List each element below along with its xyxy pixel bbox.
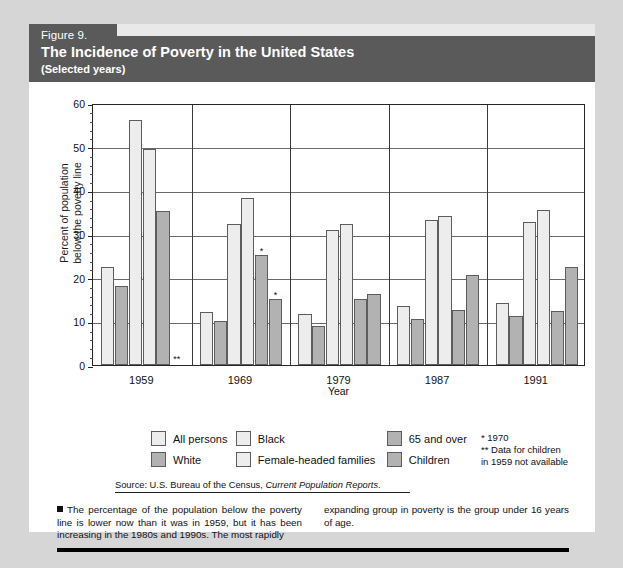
gridline bbox=[93, 148, 584, 149]
y-axis-minor-tick bbox=[90, 270, 93, 271]
bar bbox=[214, 321, 227, 365]
x-axis-title: Year bbox=[92, 385, 585, 397]
bar bbox=[367, 294, 380, 365]
legend-item-black: Black bbox=[236, 431, 387, 446]
bullet-square-icon bbox=[57, 506, 63, 512]
y-axis-minor-tick bbox=[90, 139, 93, 140]
bar bbox=[452, 310, 465, 365]
y-axis-minor-tick bbox=[90, 122, 93, 123]
bar bbox=[466, 275, 479, 365]
x-axis-tick-label: 1987 bbox=[425, 374, 449, 386]
legend-item-all-persons: All persons bbox=[151, 431, 236, 446]
y-axis-title-line2: below the poverty line bbox=[71, 108, 84, 318]
legend-label: Black bbox=[258, 433, 285, 445]
y-axis-minor-tick bbox=[90, 358, 93, 359]
bar bbox=[129, 120, 142, 365]
group-separator bbox=[389, 105, 390, 365]
y-axis-tick bbox=[88, 323, 93, 324]
figure-subtitle: (Selected years) bbox=[41, 62, 595, 76]
caption: The percentage of the population below t… bbox=[57, 504, 569, 542]
y-axis-minor-tick bbox=[90, 174, 93, 175]
y-axis-minor-tick bbox=[90, 218, 93, 219]
legend-item-children: Children bbox=[387, 452, 481, 467]
y-axis-minor-tick bbox=[90, 209, 93, 210]
y-axis-title-line1: Percent of population bbox=[58, 108, 71, 318]
bar bbox=[200, 312, 213, 365]
bar-annotation: * bbox=[255, 247, 268, 255]
group-separator bbox=[290, 105, 291, 365]
y-axis-tick-label: 40 bbox=[73, 185, 85, 197]
y-axis-minor-tick bbox=[90, 201, 93, 202]
caption-text-right: expanding group in poverty is the group … bbox=[324, 504, 569, 528]
y-axis-minor-tick bbox=[90, 288, 93, 289]
bar bbox=[537, 210, 550, 365]
bar bbox=[269, 299, 282, 365]
y-axis-tick bbox=[88, 236, 93, 237]
figure-number: Figure 9. bbox=[41, 28, 595, 42]
legend-label: Children bbox=[409, 454, 450, 466]
y-axis-tick bbox=[88, 279, 93, 280]
legend-swatch-icon bbox=[151, 431, 166, 446]
bar bbox=[551, 311, 564, 365]
legend-swatch-icon bbox=[387, 431, 402, 446]
y-axis-minor-tick bbox=[90, 305, 93, 306]
bar bbox=[438, 216, 451, 365]
bar bbox=[298, 314, 311, 365]
x-axis-tick-label: 1991 bbox=[523, 374, 547, 386]
source-suffix: . bbox=[378, 480, 381, 490]
source-prefix: Source: U.S. Bureau of the Census, bbox=[115, 480, 265, 490]
chart-legend: All persons Black 65 and over White Fema… bbox=[151, 428, 481, 470]
legend-label: All persons bbox=[173, 433, 227, 445]
legend-row: White Female-headed families Children bbox=[151, 449, 481, 470]
y-axis-minor-tick bbox=[90, 157, 93, 158]
y-axis-title: Percent of population below the poverty … bbox=[58, 108, 84, 318]
y-axis-minor-tick bbox=[90, 297, 93, 298]
group-separator bbox=[192, 105, 193, 365]
bar bbox=[227, 224, 240, 365]
y-axis-minor-tick bbox=[90, 253, 93, 254]
chart-footnotes: * 1970 ** Data for children in 1959 not … bbox=[481, 432, 593, 468]
x-axis-tick-label: 1959 bbox=[129, 374, 153, 386]
page-title: The Incidence of Poverty in the United S… bbox=[41, 43, 595, 62]
caption-column-right: expanding group in poverty is the group … bbox=[324, 504, 569, 542]
legend-label: Female-headed families bbox=[258, 454, 375, 466]
bar bbox=[496, 303, 509, 365]
source-line: Source: U.S. Bureau of the Census, Curre… bbox=[115, 480, 410, 493]
y-axis-tick-label: 0 bbox=[79, 360, 85, 372]
gridline bbox=[93, 192, 584, 193]
bar bbox=[509, 316, 522, 365]
legend-swatch-icon bbox=[236, 431, 251, 446]
y-axis-tick bbox=[88, 367, 93, 368]
y-axis-tick bbox=[88, 148, 93, 149]
x-axis-tick-label: 1979 bbox=[326, 374, 350, 386]
y-axis-minor-tick bbox=[90, 262, 93, 263]
y-axis-minor-tick bbox=[90, 113, 93, 114]
bar-annotation: * bbox=[269, 291, 282, 299]
bar bbox=[354, 299, 367, 365]
y-axis-tick-label: 20 bbox=[73, 273, 85, 285]
y-axis-tick-label: 30 bbox=[73, 229, 85, 241]
legend-item-65-and-over: 65 and over bbox=[387, 431, 481, 446]
figure-card: Figure 9. The Incidence of Poverty in th… bbox=[29, 24, 595, 532]
group-separator bbox=[487, 105, 488, 365]
bar bbox=[425, 220, 438, 365]
y-axis-tick bbox=[88, 192, 93, 193]
y-axis-minor-tick bbox=[90, 340, 93, 341]
bar bbox=[143, 149, 156, 365]
y-axis-tick-label: 10 bbox=[73, 316, 85, 328]
y-axis-minor-tick bbox=[90, 332, 93, 333]
bar bbox=[523, 222, 536, 365]
legend-swatch-icon bbox=[151, 452, 166, 467]
y-axis-minor-tick bbox=[90, 183, 93, 184]
bar-annotation: ** bbox=[170, 355, 183, 363]
bar bbox=[156, 211, 169, 365]
footnote-asterisk: * 1970 bbox=[481, 432, 593, 444]
bar bbox=[340, 224, 353, 365]
chart-block: Percent of population below the poverty … bbox=[29, 82, 595, 420]
y-axis-tick-label: 60 bbox=[73, 98, 85, 110]
legend-row: All persons Black 65 and over bbox=[151, 428, 481, 449]
bar bbox=[255, 255, 268, 365]
footnote-double-asterisk-line2: in 1959 not available bbox=[481, 456, 593, 468]
y-axis-tick bbox=[88, 105, 93, 106]
footnote-double-asterisk-line1: ** Data for children bbox=[481, 444, 593, 456]
